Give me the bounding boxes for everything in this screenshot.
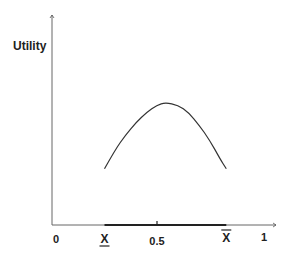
x-tick-label-x-lower: X [100,232,108,246]
x-tick-label-x-upper: X [222,231,230,245]
y-axis-label: Utility [13,39,47,53]
utility-diagram: Utility 0 X 0.5 X 1 [0,0,289,259]
x-tick-label-0: 0 [53,233,59,245]
utility-curve [105,103,227,169]
x-tick-label-1: 1 [261,231,267,243]
x-tick-label-0.5: 0.5 [149,235,164,247]
